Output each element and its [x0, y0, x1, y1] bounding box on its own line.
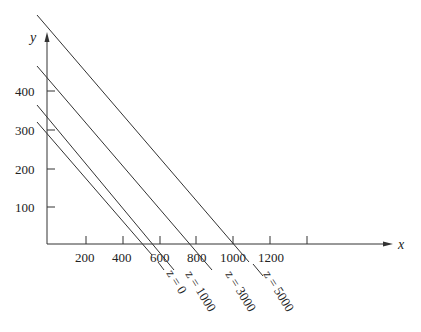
label-z5000: z = 5000 [260, 268, 297, 315]
y-tick-200: 200 [15, 162, 35, 177]
x-tick-1000: 1000 [220, 250, 246, 265]
y-tick-400: 400 [15, 84, 35, 99]
y-axis-label: y [28, 30, 37, 45]
line-z1000 [37, 105, 174, 270]
x-tick-1200: 1200 [258, 250, 284, 265]
line-z0 [37, 122, 152, 255]
x-tick-200: 200 [75, 250, 95, 265]
y-tick-100: 100 [15, 200, 35, 215]
label-z3000: z = 3000 [222, 268, 259, 315]
line-z3000 [37, 66, 212, 270]
y-axis-arrow [45, 32, 50, 42]
x-tick-400: 400 [112, 250, 132, 265]
y-tick-300: 300 [15, 123, 35, 138]
x-axis-label: x [397, 237, 405, 252]
line-z5000 [37, 15, 249, 262]
y-ticks [47, 91, 55, 207]
chart: y x 400 300 200 100 200 400 600 800 1000… [0, 0, 421, 332]
x-ticks [86, 236, 307, 244]
label-z1000: z = 1000 [182, 268, 219, 315]
x-axis-arrow [383, 242, 393, 247]
label-z0: z = 0 [163, 267, 190, 297]
